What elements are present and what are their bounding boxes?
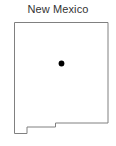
new-mexico-state-outline (15, 23, 109, 134)
state-map-figure (0, 0, 116, 146)
city-location-dot-icon[interactable] (59, 61, 65, 67)
state-map-card: New Mexico (0, 0, 116, 146)
